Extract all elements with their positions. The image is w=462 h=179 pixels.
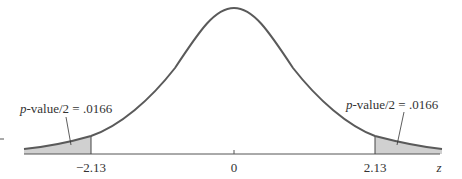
right-critical-label: 2.13 [364,160,387,175]
left-tail-annotation: p-value/2 = .0166 [19,101,113,116]
right-annotation-pointer [397,112,404,145]
normal-curve [24,8,442,149]
center-label: 0 [231,160,238,175]
normal-distribution-diagram: p-value/2 = .0166 p-value/2 = .0166 −2.1… [0,0,462,179]
right-tail-annotation: p-value/2 = .0166 [345,97,439,112]
annotation-rest: -value/2 = .0166 [353,97,439,112]
left-critical-label: −2.13 [76,160,106,175]
axis-variable-label: z [435,160,441,175]
annotation-rest: -value/2 = .0166 [27,101,113,116]
